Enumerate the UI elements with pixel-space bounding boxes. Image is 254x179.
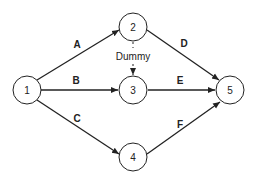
edge-E: E <box>148 75 215 90</box>
svg-text:1: 1 <box>24 85 30 96</box>
svg-text:4: 4 <box>130 152 136 163</box>
network-diagram: A B C D E F Dummy 1 2 3 4 <box>0 0 254 179</box>
node-2: 2 <box>119 13 147 41</box>
edge-label-D: D <box>180 38 187 49</box>
edge-F: F <box>147 102 220 154</box>
edge-label-F: F <box>177 119 183 130</box>
node-4: 4 <box>119 143 147 171</box>
node-1: 1 <box>13 76 41 104</box>
node-5: 5 <box>216 76 244 104</box>
edge-A: A <box>37 30 119 80</box>
node-3: 3 <box>119 76 147 104</box>
edge-B: B <box>41 75 118 90</box>
edge-C: C <box>37 100 119 154</box>
svg-text:5: 5 <box>227 85 233 96</box>
svg-text:3: 3 <box>130 85 136 96</box>
edge-D: D <box>147 30 219 80</box>
edge-dummy: Dummy <box>116 42 150 75</box>
edge-label-dummy: Dummy <box>116 51 150 62</box>
edge-label-B: B <box>72 75 79 86</box>
edge-label-C: C <box>73 113 80 124</box>
svg-text:2: 2 <box>130 22 136 33</box>
edge-label-E: E <box>177 75 184 86</box>
edge-label-A: A <box>73 39 80 50</box>
